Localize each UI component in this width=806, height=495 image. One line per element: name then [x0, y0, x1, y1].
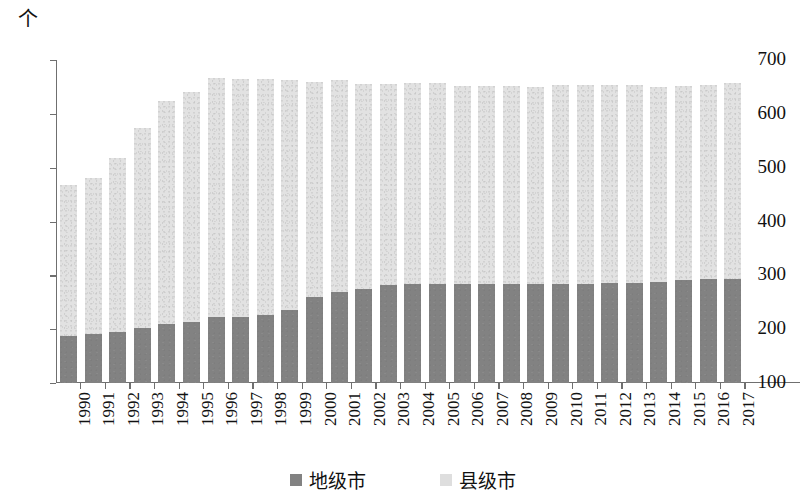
bar-group[interactable] [601, 60, 618, 383]
bar-group[interactable] [257, 60, 274, 383]
x-axis-label: 2007 [493, 392, 513, 426]
x-axis-label: 1995 [198, 392, 218, 426]
bar-segment-prefecture-city[interactable] [306, 297, 323, 383]
bar-group[interactable] [232, 60, 249, 383]
x-axis-label: 2016 [714, 392, 734, 426]
bar-segment-county-city[interactable] [109, 158, 126, 332]
bar-group[interactable] [355, 60, 372, 383]
bar-group[interactable] [85, 60, 102, 383]
bar-segment-prefecture-city[interactable] [577, 284, 594, 383]
bar-group[interactable] [158, 60, 175, 383]
bar-group[interactable] [183, 60, 200, 383]
bar-segment-county-city[interactable] [60, 185, 77, 335]
bar-segment-prefecture-city[interactable] [601, 283, 618, 383]
bar-segment-county-city[interactable] [626, 85, 643, 283]
x-axis-label: 1992 [124, 392, 144, 426]
bar-segment-prefecture-city[interactable] [281, 310, 298, 383]
bar-group[interactable] [404, 60, 421, 383]
bar-segment-county-city[interactable] [454, 86, 471, 285]
bar-group[interactable] [478, 60, 495, 383]
bar-segment-prefecture-city[interactable] [380, 285, 397, 383]
bar-segment-county-city[interactable] [700, 85, 717, 279]
bar-segment-prefecture-city[interactable] [675, 280, 692, 383]
bar-group[interactable] [429, 60, 446, 383]
bar-group[interactable] [577, 60, 594, 383]
bar-segment-prefecture-city[interactable] [355, 289, 372, 383]
bar-segment-county-city[interactable] [601, 85, 618, 283]
bar-segment-county-city[interactable] [306, 82, 323, 297]
bar-segment-prefecture-city[interactable] [650, 282, 667, 383]
x-tick-mark [744, 382, 745, 389]
bar-segment-county-city[interactable] [503, 86, 520, 284]
x-tick-mark [252, 382, 253, 389]
x-axis-label: 2014 [665, 392, 685, 426]
bar-segment-county-city[interactable] [650, 87, 667, 281]
bar-group[interactable] [380, 60, 397, 383]
bar-group[interactable] [281, 60, 298, 383]
bar-group[interactable] [109, 60, 126, 383]
legend-item-county[interactable]: 县级市 [440, 466, 516, 493]
legend-item-prefecture[interactable]: 地级市 [290, 466, 366, 493]
bar-segment-county-city[interactable] [208, 78, 225, 318]
bar-segment-county-city[interactable] [675, 86, 692, 280]
bar-segment-county-city[interactable] [232, 79, 249, 317]
bar-segment-county-city[interactable] [183, 92, 200, 322]
bar-group[interactable] [503, 60, 520, 383]
bar-segment-prefecture-city[interactable] [552, 284, 569, 383]
bar-segment-prefecture-city[interactable] [454, 284, 471, 383]
bar-segment-prefecture-city[interactable] [478, 284, 495, 383]
bar-group[interactable] [675, 60, 692, 383]
bar-group[interactable] [454, 60, 471, 383]
bar-segment-county-city[interactable] [527, 87, 544, 285]
bar-group[interactable] [208, 60, 225, 383]
bar-group[interactable] [306, 60, 323, 383]
bar-segment-prefecture-city[interactable] [700, 279, 717, 383]
bar-segment-prefecture-city[interactable] [134, 328, 151, 383]
bar-group[interactable] [700, 60, 717, 383]
x-tick-mark [351, 382, 352, 389]
bar-group[interactable] [60, 60, 77, 383]
bar-segment-prefecture-city[interactable] [724, 279, 741, 383]
bar-segment-prefecture-city[interactable] [527, 284, 544, 383]
bar-segment-county-city[interactable] [478, 86, 495, 284]
bar-segment-prefecture-city[interactable] [85, 334, 102, 383]
bar-segment-county-city[interactable] [281, 80, 298, 310]
bar-segment-county-city[interactable] [429, 83, 446, 284]
legend-swatch-icon [290, 474, 302, 486]
bar-segment-prefecture-city[interactable] [109, 332, 126, 383]
bar-segment-prefecture-city[interactable] [331, 292, 348, 383]
bar-segment-prefecture-city[interactable] [503, 284, 520, 383]
bar-group[interactable] [626, 60, 643, 383]
bar-segment-county-city[interactable] [257, 79, 274, 314]
bar-group[interactable] [650, 60, 667, 383]
x-tick-mark [80, 382, 81, 389]
bar-segment-county-city[interactable] [331, 80, 348, 292]
bar-segment-county-city[interactable] [85, 178, 102, 334]
bar-segment-county-city[interactable] [134, 128, 151, 328]
bar-segment-county-city[interactable] [158, 101, 175, 323]
bar-group[interactable] [134, 60, 151, 383]
bar-segment-prefecture-city[interactable] [429, 284, 446, 383]
x-axis-label: 2000 [321, 392, 341, 426]
bar-segment-prefecture-city[interactable] [404, 284, 421, 383]
bar-segment-prefecture-city[interactable] [257, 315, 274, 383]
bar-segment-county-city[interactable] [577, 85, 594, 284]
bar-segment-prefecture-city[interactable] [60, 336, 77, 383]
bar-segment-county-city[interactable] [380, 84, 397, 285]
bar-segment-prefecture-city[interactable] [158, 324, 175, 383]
x-tick-mark [621, 382, 622, 389]
bar-segment-prefecture-city[interactable] [183, 322, 200, 383]
x-axis-label: 2005 [444, 392, 464, 426]
bar-segment-county-city[interactable] [724, 83, 741, 278]
bar-segment-prefecture-city[interactable] [208, 317, 225, 383]
bar-group[interactable] [552, 60, 569, 383]
bar-group[interactable] [331, 60, 348, 383]
bar-segment-county-city[interactable] [552, 85, 569, 284]
bar-segment-prefecture-city[interactable] [626, 283, 643, 383]
bar-group[interactable] [724, 60, 741, 383]
x-axis-label: 2013 [640, 392, 660, 426]
bar-group[interactable] [527, 60, 544, 383]
bar-segment-prefecture-city[interactable] [232, 317, 249, 383]
bar-segment-county-city[interactable] [404, 83, 421, 284]
bar-segment-county-city[interactable] [355, 84, 372, 289]
